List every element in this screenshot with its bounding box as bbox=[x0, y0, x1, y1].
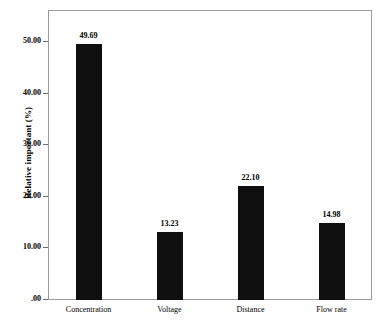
y-axis-tick-label: 40.00 bbox=[0, 88, 41, 97]
bar-value-label: 49.69 bbox=[59, 31, 119, 40]
bar-voltage[interactable] bbox=[157, 232, 183, 300]
bar-distance[interactable] bbox=[238, 186, 264, 300]
bar-value-label: 22.10 bbox=[221, 173, 281, 182]
x-axis-category-label: Distance bbox=[206, 305, 296, 314]
y-axis-tick-label: 10.00 bbox=[0, 242, 41, 251]
x-axis-category-label: Flow rate bbox=[287, 305, 377, 314]
bar-value-label: 14.98 bbox=[302, 210, 362, 219]
x-axis-category-label: Voltage bbox=[125, 305, 215, 314]
bar-value-label: 13.23 bbox=[140, 219, 200, 228]
y-axis-tick-label: 30.00 bbox=[0, 139, 41, 148]
y-axis-tick-label: 50.00 bbox=[0, 36, 41, 45]
bar-chart-figure: Relative important (%) 50.0040.0030.0020… bbox=[0, 0, 385, 327]
y-axis-tick-label: 20.00 bbox=[0, 191, 41, 200]
y-axis-tick-label: .00 bbox=[0, 294, 41, 303]
x-axis-category-label: Concentration bbox=[44, 305, 134, 314]
bar-flow-rate[interactable] bbox=[319, 223, 345, 300]
bar-concentration[interactable] bbox=[76, 44, 102, 300]
